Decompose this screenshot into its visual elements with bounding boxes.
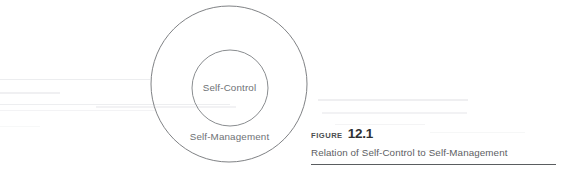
scan-streak xyxy=(322,112,467,114)
figure-caption: FIGURE 12.1 Relation of Self-Control to … xyxy=(311,126,556,165)
figure-number: 12.1 xyxy=(348,126,373,141)
figure-word-label: FIGURE xyxy=(311,131,343,140)
diagram-label-self-control: Self-Control xyxy=(0,82,459,93)
figure-page: Self-Control Self-Management FIGURE 12.1… xyxy=(0,0,563,180)
figure-title: Relation of Self-Control to Self-Managem… xyxy=(311,147,556,158)
caption-divider xyxy=(311,164,556,165)
scan-streak xyxy=(318,99,468,101)
figure-number-line: FIGURE 12.1 xyxy=(311,126,556,142)
scan-streak xyxy=(335,124,425,125)
